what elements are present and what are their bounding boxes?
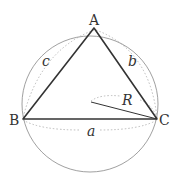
vertex-b-label: B [9,112,19,128]
side-a-label: a [87,123,95,139]
vertex-a-label: A [88,12,100,28]
radius-label: R [121,92,133,108]
side-a-brace-right [100,120,157,130]
side-c-label: c [42,53,50,69]
triangle-abc [23,28,157,119]
side-a-brace-left [23,120,80,130]
side-b-label: b [128,53,137,69]
triangle-circumcircle-diagram: A B C c b a R [0,0,183,181]
vertex-c-label: C [159,112,170,128]
